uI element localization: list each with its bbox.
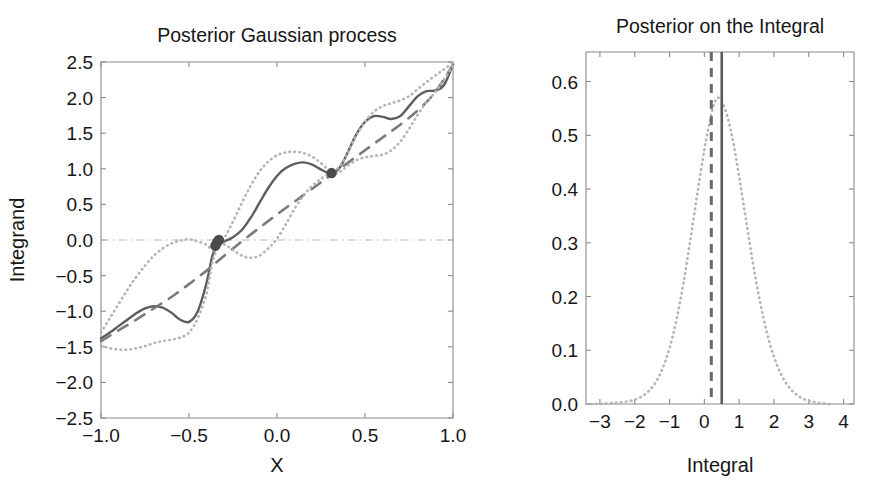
x-tick-label: 1.0: [440, 425, 466, 446]
right-plot-title: Posterior on the Integral: [616, 15, 824, 37]
y-tick-label: 1.5: [67, 123, 93, 144]
x-tick-label: −2: [624, 411, 646, 432]
x-tick-label: −3: [589, 411, 611, 432]
y-tick-label: 0.0: [552, 394, 578, 415]
y-tick-label: −1.0: [55, 301, 93, 322]
x-tick-label: 2: [769, 411, 780, 432]
y-tick-label: −2.5: [55, 408, 93, 429]
x-tick-label: −0.5: [170, 425, 208, 446]
y-tick-label: 1.0: [67, 159, 93, 180]
y-tick-label: 2.0: [67, 88, 93, 109]
figure-root: Posterior Gaussian process −1.0−0.50.00.…: [0, 0, 882, 487]
observation-point: [214, 235, 224, 245]
left-x-axis-label: X: [270, 454, 283, 476]
observation-point: [326, 168, 336, 178]
y-tick-label: 0.5: [67, 194, 93, 215]
y-tick-label: 2.5: [67, 52, 93, 73]
y-tick-label: 0.6: [552, 72, 578, 93]
y-tick-label: 0.1: [552, 340, 578, 361]
x-tick-label: 3: [803, 411, 814, 432]
y-tick-label: 0.2: [552, 287, 578, 308]
x-tick-label: 0: [699, 411, 710, 432]
y-tick-label: −1.5: [55, 337, 93, 358]
figure-canvas: Posterior Gaussian process −1.0−0.50.00.…: [0, 0, 882, 487]
y-tick-label: 0.4: [552, 179, 579, 200]
left-y-axis-label: Integrand: [6, 198, 28, 283]
x-tick-label: 0.5: [352, 425, 378, 446]
y-tick-label: 0.0: [67, 230, 93, 251]
x-tick-label: 0.0: [264, 425, 290, 446]
y-tick-label: −2.0: [55, 372, 93, 393]
right-x-axis-label: Integral: [687, 454, 754, 476]
x-tick-label: −1: [659, 411, 681, 432]
left-plot-title: Posterior Gaussian process: [157, 24, 397, 46]
y-tick-label: −0.5: [55, 266, 93, 287]
x-tick-label: 1: [734, 411, 745, 432]
y-tick-label: 0.3: [552, 233, 578, 254]
x-tick-label: 4: [838, 411, 849, 432]
y-tick-label: 0.5: [552, 125, 578, 146]
